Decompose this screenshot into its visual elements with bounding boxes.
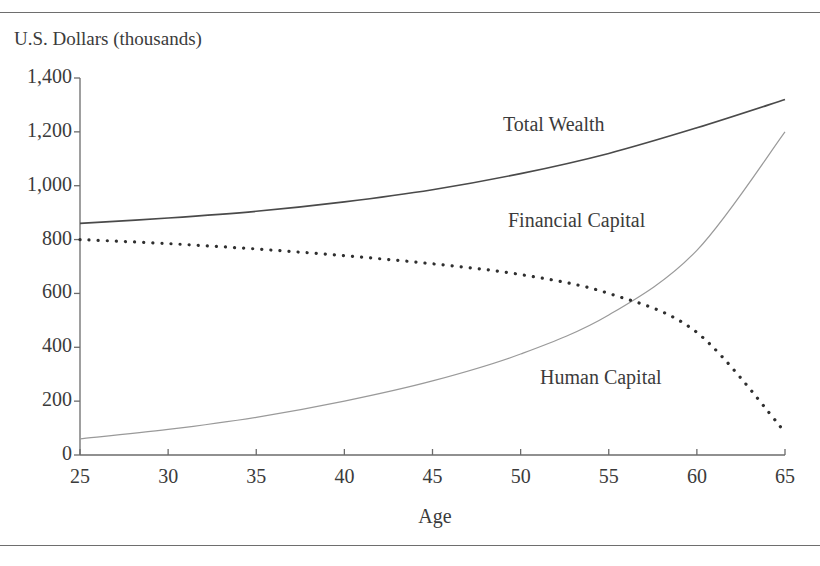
x-tick-label: 30 bbox=[138, 465, 198, 488]
x-tick-label: 40 bbox=[314, 465, 374, 488]
y-tick-label: 200 bbox=[8, 388, 72, 411]
y-tick-label: 1,200 bbox=[8, 119, 72, 142]
x-tick-label: 45 bbox=[403, 465, 463, 488]
series-label-total-wealth: Total Wealth bbox=[503, 113, 605, 136]
x-tick-label: 60 bbox=[667, 465, 727, 488]
series-label-human-capital: Human Capital bbox=[540, 366, 662, 389]
y-tick-label: 1,000 bbox=[8, 173, 72, 196]
x-tick-label: 55 bbox=[579, 465, 639, 488]
y-tick-label: 400 bbox=[8, 334, 72, 357]
x-tick-label: 35 bbox=[226, 465, 286, 488]
figure-container: U.S. Dollars (thousands) Total Wealth Fi… bbox=[0, 0, 820, 566]
x-axis-title: Age bbox=[375, 505, 495, 528]
series-label-financial-capital: Financial Capital bbox=[508, 209, 645, 232]
series-line-total-wealth bbox=[80, 100, 785, 224]
chart-series bbox=[80, 100, 785, 439]
x-tick-label: 65 bbox=[755, 465, 815, 488]
series-line-financial-capital bbox=[80, 132, 785, 439]
x-tick-label: 50 bbox=[491, 465, 551, 488]
y-tick-label: 600 bbox=[8, 280, 72, 303]
y-tick-label: 0 bbox=[8, 442, 72, 465]
x-tick-label: 25 bbox=[50, 465, 110, 488]
y-tick-label: 1,400 bbox=[8, 65, 72, 88]
chart-axes bbox=[74, 78, 785, 455]
y-tick-label: 800 bbox=[8, 227, 72, 250]
series-line-human-capital bbox=[80, 240, 785, 433]
